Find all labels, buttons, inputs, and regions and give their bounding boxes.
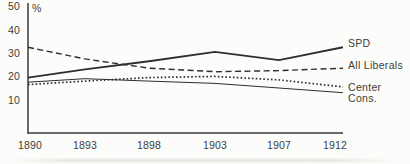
chart-canvas: 5040302010189018931898190319071912SPDAll… (0, 0, 410, 164)
scan-artifact (10, 159, 396, 162)
y-tick-label: 50 (8, 0, 20, 12)
series-line-cons- (28, 79, 343, 93)
series-label-spd: SPD (348, 37, 371, 49)
y-axis-unit-label: % (32, 2, 42, 14)
vote-share-line-chart: 5040302010189018931898190319071912SPDAll… (0, 0, 410, 164)
y-tick-label: 10 (8, 94, 20, 106)
series-line-all-liberals (28, 47, 343, 71)
series-label-all-liberals: All Liberals (348, 59, 403, 71)
y-tick-label: 20 (8, 70, 20, 82)
series-line-center (28, 76, 343, 87)
x-tick-label: 1898 (137, 139, 161, 151)
y-tick-label: 30 (8, 47, 20, 59)
x-tick-label: 1903 (203, 139, 227, 151)
y-tick-label: 40 (8, 24, 20, 36)
series-label-cons-: Cons. (348, 92, 377, 104)
x-tick-label: 1907 (267, 139, 291, 151)
x-tick-label: 1893 (73, 139, 97, 151)
x-tick-label: 1912 (323, 139, 347, 151)
x-tick-label: 1890 (18, 139, 42, 151)
series-line-spd (28, 47, 343, 77)
